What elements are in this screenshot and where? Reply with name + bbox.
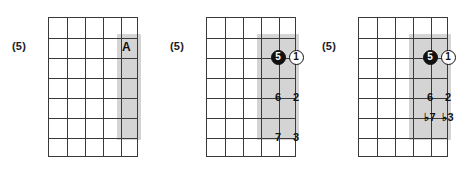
- fretboard-diagram-3: (5)5162♭7♭3: [310, 0, 458, 178]
- interval-marker-open: 1: [441, 50, 456, 65]
- grid-line-horizontal: [207, 138, 295, 139]
- position-label: (5): [12, 40, 26, 52]
- scale-degree-label: ♭7: [424, 112, 435, 123]
- fret-grid: 5162♭7♭3: [358, 17, 448, 157]
- scale-degree-label: ♭3: [442, 112, 453, 123]
- fretboard-diagram-2: (5)516273: [158, 0, 306, 178]
- note-name-label: A: [122, 41, 131, 53]
- grid-line-horizontal: [49, 58, 137, 59]
- interval-marker-root-fifth: 5: [271, 50, 286, 65]
- grid-line-horizontal: [49, 118, 137, 119]
- grid-lines: [48, 17, 138, 157]
- fretboard-diagrams-page: (5)A(5)516273(5)5162♭7♭3: [0, 0, 458, 178]
- grid-line-horizontal: [49, 138, 137, 139]
- scale-degree-label: 7: [275, 132, 281, 143]
- grid-line-horizontal: [207, 78, 295, 79]
- grid-lines: [358, 17, 448, 157]
- scale-degree-label: 3: [293, 132, 299, 143]
- grid-line-horizontal: [49, 78, 137, 79]
- grid-line-horizontal: [207, 118, 295, 119]
- fret-grid: [48, 17, 138, 157]
- scale-degree-label: 6: [427, 92, 433, 103]
- grid-line-horizontal: [359, 38, 447, 39]
- grid-line-horizontal: [207, 98, 295, 99]
- interval-marker-open: 1: [289, 50, 304, 65]
- grid-lines: [206, 17, 296, 157]
- grid-line-horizontal: [359, 98, 447, 99]
- position-label: (5): [322, 40, 336, 52]
- fretboard-diagram-1: (5)A: [0, 0, 148, 178]
- grid-line-horizontal: [207, 38, 295, 39]
- position-label: (5): [170, 40, 184, 52]
- scale-degree-label: 2: [293, 92, 299, 103]
- grid-line-horizontal: [49, 98, 137, 99]
- scale-degree-label: 2: [445, 92, 451, 103]
- fret-grid: 516273: [206, 17, 296, 157]
- interval-marker-root-fifth: 5: [423, 50, 438, 65]
- scale-degree-label: 6: [275, 92, 281, 103]
- grid-line-horizontal: [359, 78, 447, 79]
- grid-line-horizontal: [359, 138, 447, 139]
